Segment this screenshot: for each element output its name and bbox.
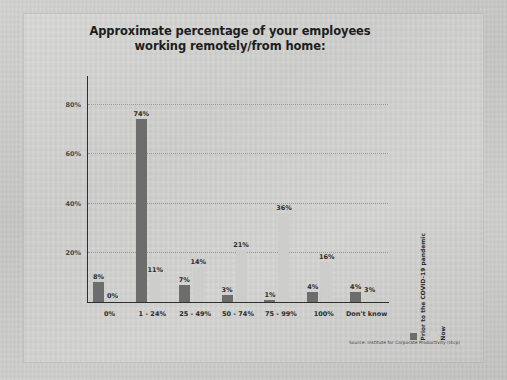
y-axis-tick-label: 60%	[65, 150, 81, 158]
x-axis-line	[87, 302, 389, 303]
x-axis-category-label: 50 - 74%	[217, 310, 260, 318]
chart-title: Approximate percentage of your employees…	[60, 24, 400, 54]
bar[interactable]: 14%	[193, 267, 204, 302]
bar-group: 4%3%Don't know	[345, 84, 388, 302]
bar-value-label: 21%	[233, 241, 249, 249]
bar[interactable]: 11%	[150, 275, 161, 302]
bar-value-label: 4%	[350, 283, 361, 291]
y-axis-tick-label: 40%	[65, 200, 81, 208]
bar-value-label: 14%	[190, 258, 206, 266]
bar-value-label: 3%	[364, 286, 375, 294]
legend-label: Now	[440, 326, 447, 341]
slide-background: Approximate percentage of your employees…	[0, 0, 507, 380]
legend-item-prior-to-covid: Prior to the COVID-19 pandemic	[410, 233, 427, 340]
x-axis-category-label: 1 - 24%	[131, 310, 174, 318]
x-axis-category-label: 100%	[302, 310, 345, 318]
bar[interactable]: 1%	[264, 300, 275, 302]
y-axis-tick-label: 20%	[65, 249, 81, 257]
bar-value-label: 3%	[222, 286, 233, 294]
bar-group: 1%36%75 - 99%	[259, 84, 302, 302]
bar-value-label: 0%	[107, 292, 118, 300]
chart-title-line-2: working remotely/from home:	[60, 39, 400, 54]
bar-group: 7%14%25 - 49%	[174, 84, 217, 302]
bar-value-label: 7%	[179, 276, 190, 284]
chart-legend: Prior to the COVID-19 pandemic Now	[404, 232, 450, 340]
x-axis-category-label: 0%	[88, 310, 131, 318]
bar[interactable]: 3%	[222, 295, 233, 302]
bar-value-label: 4%	[307, 283, 318, 291]
bar-value-label: 16%	[319, 253, 335, 261]
bar-value-label: 11%	[148, 266, 164, 274]
bar[interactable]: 8%	[93, 282, 104, 302]
bar-group: 3%21%50 - 74%	[217, 84, 260, 302]
bar-group: 74%11%1 - 24%	[131, 84, 174, 302]
bar[interactable]: 0%	[107, 301, 118, 302]
bar[interactable]: 16%	[321, 262, 332, 302]
legend-item-now: Now	[430, 326, 447, 341]
bar-value-label: 8%	[93, 273, 104, 281]
x-axis-category-label: 75 - 99%	[259, 310, 302, 318]
plot-area: 20%40%60%80% 8%0%0%74%11%1 - 24%7%14%25 …	[88, 84, 388, 302]
bar[interactable]: 4%	[307, 292, 318, 302]
x-axis-category-label: Don't know	[345, 310, 388, 318]
legend-label: Prior to the COVID-19 pandemic	[420, 233, 427, 340]
x-axis-category-label: 25 - 49%	[174, 310, 217, 318]
bar[interactable]: 74%	[136, 119, 147, 302]
source-note: Source: Institute for Corporate Producti…	[300, 340, 460, 345]
chart-title-line-1: Approximate percentage of your employees	[89, 24, 370, 38]
bar-value-label: 1%	[264, 291, 275, 299]
bar-value-label: 36%	[276, 204, 292, 212]
legend-swatch-icon	[410, 333, 417, 340]
bar[interactable]: 3%	[364, 295, 375, 302]
bar-value-label: 74%	[134, 110, 150, 118]
bar[interactable]: 36%	[278, 213, 289, 302]
bar[interactable]: 21%	[236, 250, 247, 302]
legend-swatch-icon	[430, 333, 437, 340]
bar-group: 8%0%0%	[88, 84, 131, 302]
bar-group: 4%16%100%	[302, 84, 345, 302]
bar[interactable]: 7%	[179, 285, 190, 302]
y-axis-tick-label: 80%	[65, 101, 81, 109]
bar[interactable]: 4%	[350, 292, 361, 302]
